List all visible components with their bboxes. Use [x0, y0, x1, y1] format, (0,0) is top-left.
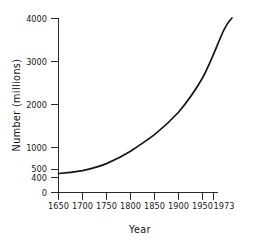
- x-axis-tick-labels: 1650 1700 1750 1800 1850 1900 1950 1973: [48, 201, 234, 211]
- y-axis-ticks: [51, 19, 59, 193]
- x-tick-label-1950: 1950: [192, 201, 213, 211]
- x-tick-label-1973: 1973: [214, 201, 235, 211]
- x-tick-label-1850: 1850: [144, 201, 165, 211]
- x-tick-label-1750: 1750: [96, 201, 117, 211]
- population-curve: [59, 18, 233, 174]
- y-axis-tick-labels: 4000 3000 2000 1000 500 400 0: [26, 14, 47, 198]
- y-axis-title: Number (millions): [11, 59, 22, 152]
- y-tick-label-3000: 3000: [26, 57, 47, 67]
- x-tick-label-1800: 1800: [120, 201, 141, 211]
- x-tick-label-1650: 1650: [48, 201, 69, 211]
- x-axis-title: Year: [128, 224, 151, 235]
- y-tick-label-1000: 1000: [26, 143, 47, 153]
- y-tick-label-2000: 2000: [26, 100, 47, 110]
- x-tick-label-1700: 1700: [72, 201, 93, 211]
- y-tick-label-4000: 4000: [26, 14, 47, 24]
- x-axis-ticks: [59, 193, 214, 200]
- x-tick-label-1900: 1900: [168, 201, 189, 211]
- chart-container: 4000 3000 2000 1000 500 400 0 1650 1700 …: [0, 0, 263, 245]
- y-tick-label-400: 400: [31, 173, 47, 183]
- y-tick-label-0: 0: [42, 188, 47, 198]
- population-growth-chart: 4000 3000 2000 1000 500 400 0 1650 1700 …: [0, 0, 263, 245]
